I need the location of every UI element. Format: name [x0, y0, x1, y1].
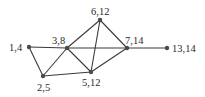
node-label-13-14: 13,14: [172, 43, 196, 54]
node-n512: [89, 70, 93, 74]
edge-n25-n38: [43, 48, 67, 76]
node-label-5-12: 5,12: [82, 77, 100, 88]
node-n612: [98, 18, 102, 22]
node-n25: [41, 74, 45, 78]
node-label-1-4: 1,4: [9, 42, 23, 53]
edges-group: [29, 20, 167, 76]
node-label-6-12: 6,12: [91, 6, 109, 17]
edge-n512-n714: [91, 48, 127, 72]
node-label-3-8: 3,8: [52, 35, 65, 46]
node-label-7-14: 7,14: [125, 35, 144, 46]
graph-diagram: 1,4 3,8 6,12 7,14 13,14 2,5 5,12: [0, 0, 205, 97]
edge-n38-n612: [67, 20, 100, 48]
edge-n612-n714: [100, 20, 127, 48]
node-n714: [125, 46, 129, 50]
edge-n612-n512: [91, 20, 100, 72]
node-n1314: [165, 46, 169, 50]
node-label-2-5: 2,5: [37, 82, 50, 93]
edge-n25-n512: [43, 72, 91, 76]
edge-n14-n25: [29, 47, 43, 76]
edge-n14-n38: [29, 47, 67, 48]
edge-n38-n512: [67, 48, 91, 72]
node-n38: [65, 46, 69, 50]
node-n14: [27, 45, 31, 49]
